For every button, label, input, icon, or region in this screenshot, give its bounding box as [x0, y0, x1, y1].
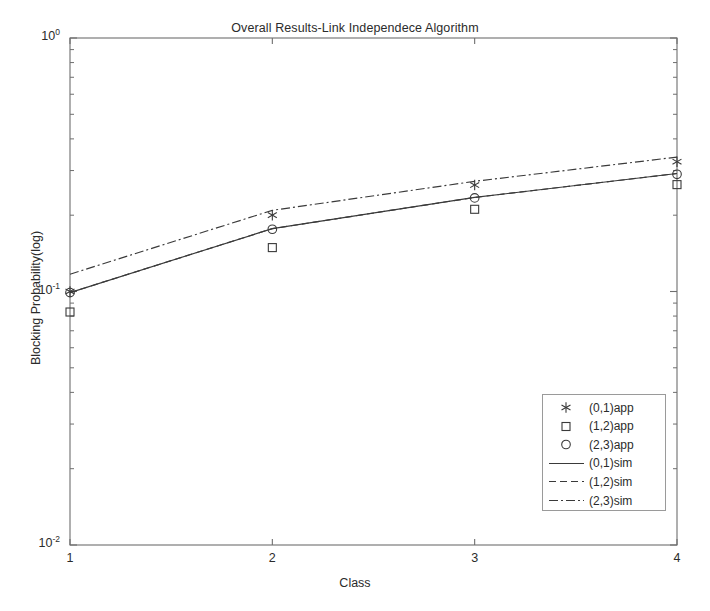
series-line — [70, 174, 677, 293]
legend-label: (0,1)sim — [589, 456, 632, 470]
circle-marker — [562, 440, 571, 449]
dashdot-line — [543, 491, 589, 510]
y-tick-label: 100 — [16, 29, 60, 43]
plot-area — [0, 0, 710, 611]
legend-label: (2,3)sim — [589, 494, 632, 508]
dashed-line — [543, 472, 589, 491]
legend-item-(2,3)app[interactable]: (2,3)app — [543, 435, 667, 454]
series-(0,1)sim — [70, 174, 677, 293]
legend-item-(1,2)app[interactable]: (1,2)app — [543, 417, 667, 436]
legend-label: (1,2)app — [589, 419, 634, 433]
circle-marker — [543, 435, 589, 454]
square-marker — [471, 205, 479, 213]
x-tick-label: 3 — [460, 551, 490, 565]
legend[interactable]: (0,1)app(1,2)app(2,3)app(0,1)sim(1,2)sim… — [542, 394, 666, 511]
solid-line — [543, 454, 589, 473]
series-line — [70, 157, 677, 274]
y-tick-label: 10-2 — [16, 536, 60, 550]
legend-item-(1,2)sim[interactable]: (1,2)sim — [543, 472, 667, 491]
legend-item-(0,1)app[interactable]: (0,1)app — [543, 398, 667, 417]
legend-label: (0,1)app — [589, 401, 634, 415]
legend-item-(0,1)sim[interactable]: (0,1)sim — [543, 454, 667, 473]
legend-label: (1,2)sim — [589, 475, 632, 489]
square-marker — [543, 417, 589, 436]
series-(2,3)app — [66, 170, 682, 297]
legend-item-(2,3)sim[interactable]: (2,3)sim — [543, 491, 667, 510]
x-tick-label: 4 — [662, 551, 692, 565]
data-series-group — [65, 157, 681, 316]
x-tick-label: 1 — [55, 551, 85, 565]
x-tick-label: 2 — [257, 551, 287, 565]
square-marker — [268, 244, 276, 252]
figure-canvas: Overall Results-Link Independece Algorit… — [0, 0, 710, 611]
y-tick-label: 10-1 — [16, 283, 60, 297]
y-axis-title: Blocking Probability(log) — [29, 178, 43, 418]
series-(0,1)app — [65, 157, 681, 297]
square-marker — [562, 422, 570, 430]
series-line — [70, 174, 677, 293]
series-(2,3)sim — [70, 157, 677, 274]
x-axis-title: Class — [0, 576, 710, 590]
series-(1,2)sim — [70, 174, 677, 293]
star-marker — [543, 398, 589, 417]
series-(1,2)app — [66, 181, 681, 316]
legend-label: (2,3)app — [589, 438, 634, 452]
